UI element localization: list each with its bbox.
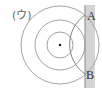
- point-b-label: B: [86, 68, 94, 83]
- wave-diagram: (ウ) A B: [0, 0, 102, 90]
- figure-label: (ウ): [12, 6, 32, 22]
- reflected-arc: [70, 15, 85, 74]
- source-point: [59, 44, 62, 47]
- point-a-label: A: [87, 9, 96, 24]
